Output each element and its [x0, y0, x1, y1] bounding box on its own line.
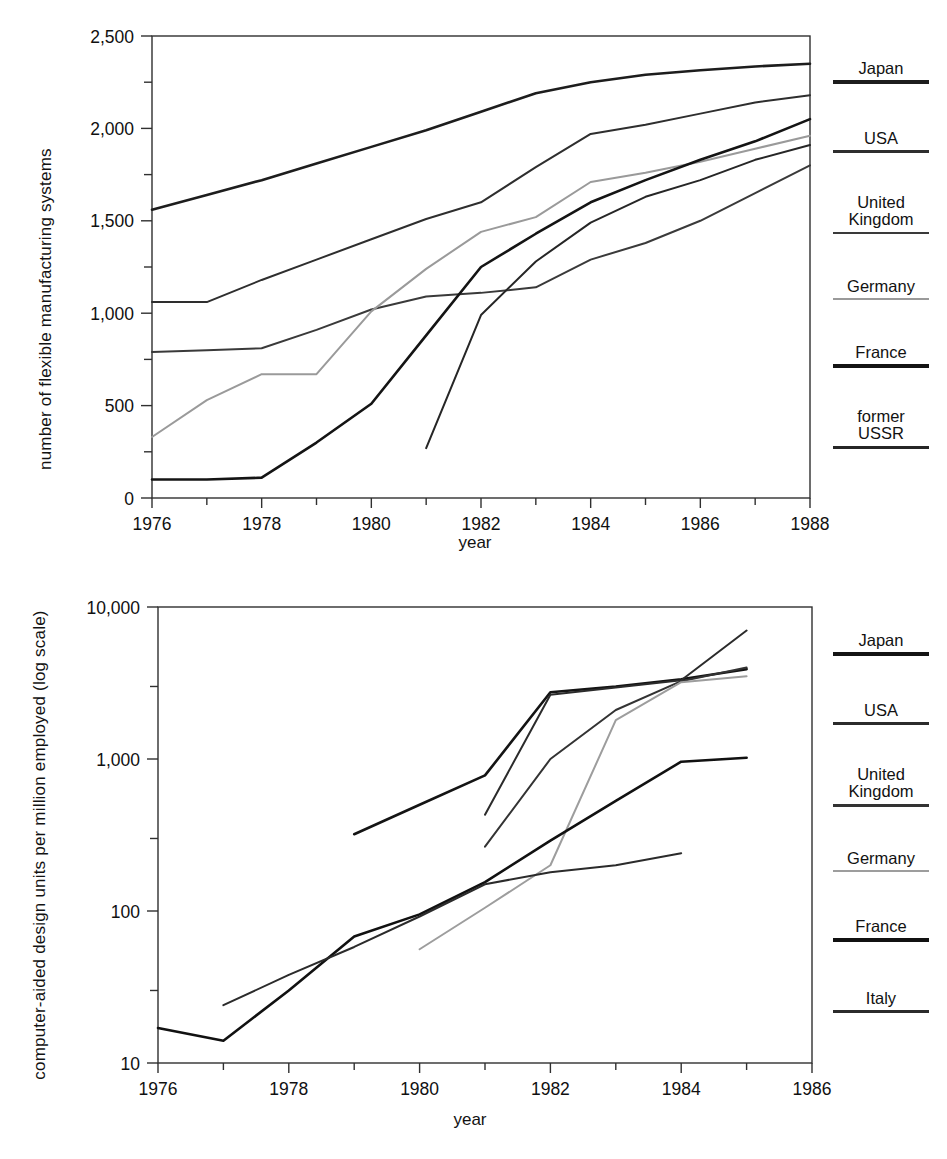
legend-swatch-line [833, 232, 929, 234]
series-line-germany [420, 676, 747, 949]
legend-swatch-line [833, 298, 929, 300]
x-tick-label: 1986 [793, 1079, 832, 1099]
legend-label: USA [822, 702, 940, 719]
series-line-usa [152, 95, 810, 302]
legend-swatch-line [833, 804, 929, 807]
legend-swatch-line [833, 938, 929, 941]
x-tick-label: 1978 [242, 514, 281, 534]
plot-area-bottom: 197619781980198219841986101001,00010,000 [0, 580, 840, 1159]
series-line-united-kingdom [485, 667, 747, 846]
legend-entry-former-ussr[interactable]: former USSR [822, 408, 940, 449]
y-tick-label: 100 [111, 902, 140, 922]
y-tick-label: 2,000 [90, 119, 134, 139]
legend-label: USA [822, 130, 940, 147]
legend-label: former USSR [822, 408, 940, 443]
legend-entry-japan[interactable]: Japan [822, 632, 940, 656]
legend-entry-france[interactable]: France [822, 918, 940, 942]
legend-label: United Kingdom [822, 766, 940, 801]
legend-label: Italy [822, 990, 940, 1007]
legend-entry-usa[interactable]: USA [822, 130, 940, 153]
x-tick-label: 1980 [352, 514, 391, 534]
legend-top: JapanUSAUnited KingdomGermanyFranceforme… [822, 38, 942, 458]
legend-entry-germany[interactable]: Germany [822, 850, 940, 872]
legend-bottom: JapanUSAUnited KingdomGermanyFranceItaly [822, 592, 942, 1012]
legend-entry-usa[interactable]: USA [822, 702, 940, 725]
legend-entry-germany[interactable]: Germany [822, 278, 940, 300]
x-tick-label: 1988 [791, 514, 830, 534]
x-axis-title-bottom: year [410, 1110, 530, 1130]
legend-entry-united-kingdom[interactable]: United Kingdom [822, 766, 940, 807]
plot-area-top: 197619781980198219841986198805001,0001,5… [0, 0, 840, 580]
y-tick-label: 1,000 [96, 750, 140, 770]
x-tick-label: 1976 [139, 1079, 178, 1099]
line-chart-cad: 197619781980198219841986101001,00010,000 [0, 580, 840, 1159]
legend-swatch-line [833, 150, 929, 153]
legend-label: Germany [822, 850, 940, 867]
legend-label: Japan [822, 60, 940, 77]
y-tick-label: 1,500 [90, 211, 134, 231]
legend-swatch-line [833, 722, 929, 725]
x-tick-label: 1976 [133, 514, 172, 534]
series-line-germany [152, 136, 810, 437]
legend-entry-italy[interactable]: Italy [822, 990, 940, 1013]
y-tick-label: 0 [124, 489, 134, 509]
x-tick-label: 1986 [681, 514, 720, 534]
x-tick-label: 1978 [269, 1079, 308, 1099]
x-tick-label: 1984 [662, 1079, 701, 1099]
figure-flexible-manufacturing-systems: number of flexible manufacturing systems… [0, 0, 947, 580]
legend-label: France [822, 918, 940, 935]
legend-swatch-line [833, 1010, 929, 1013]
series-line-japan [152, 64, 810, 210]
legend-swatch-line [833, 652, 929, 656]
series-line-united-kingdom [152, 165, 810, 352]
legend-entry-france[interactable]: France [822, 344, 940, 368]
y-tick-label: 10 [121, 1054, 141, 1074]
y-tick-label: 2,500 [90, 27, 134, 47]
y-tick-label: 1,000 [90, 304, 134, 324]
legend-label: United Kingdom [822, 194, 940, 229]
series-line-france [152, 119, 810, 479]
legend-label: France [822, 344, 940, 361]
legend-swatch-line [833, 364, 929, 367]
series-line-france [158, 758, 747, 1041]
x-axis-title-top: year [415, 533, 535, 553]
x-tick-label: 1984 [571, 514, 610, 534]
x-tick-label: 1980 [400, 1079, 439, 1099]
legend-swatch-line [833, 446, 929, 449]
legend-entry-united-kingdom[interactable]: United Kingdom [822, 194, 940, 234]
legend-swatch-line [833, 80, 929, 83]
y-tick-label: 10,000 [86, 598, 140, 618]
legend-entry-japan[interactable]: Japan [822, 60, 940, 84]
line-chart-fms: 197619781980198219841986198805001,0001,5… [0, 0, 840, 580]
legend-label: Japan [822, 632, 940, 649]
legend-label: Germany [822, 278, 940, 295]
x-tick-label: 1982 [531, 1079, 570, 1099]
x-tick-label: 1982 [462, 514, 501, 534]
legend-swatch-line [833, 870, 929, 872]
figure-cad-units: computer-aided design units per million … [0, 580, 947, 1159]
y-tick-label: 500 [105, 396, 134, 416]
